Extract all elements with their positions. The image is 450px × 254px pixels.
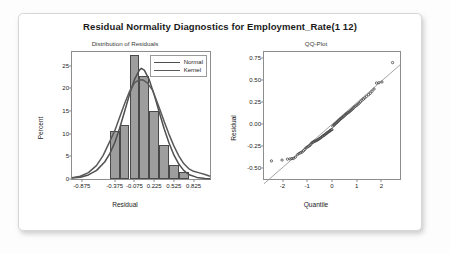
hist-x-tick: 0.825 bbox=[186, 183, 201, 189]
hist-x-tickmark bbox=[173, 179, 174, 182]
qq-panel: QQ-Plot Residual Quantile -0.50-0.250.00… bbox=[223, 40, 409, 216]
hist-x-tickmark bbox=[154, 179, 155, 182]
qq-point bbox=[270, 160, 272, 162]
qq-y-tick: -0.50 bbox=[247, 165, 261, 171]
qq-point bbox=[331, 128, 333, 130]
hist-y-tick: 15 bbox=[62, 108, 69, 114]
hist-y-tick: 20 bbox=[62, 85, 69, 91]
histogram-plot-area: Normal Kernel 0510152025-0.875-0.375-0.0… bbox=[71, 51, 211, 180]
hist-x-tick: 0.225 bbox=[147, 183, 162, 189]
hist-x-tick: -0.875 bbox=[73, 183, 90, 189]
hist-x-tick: -0.075 bbox=[126, 183, 143, 189]
hist-y-tick: 10 bbox=[62, 131, 69, 137]
qq-y-axis-label: Residual bbox=[230, 115, 237, 141]
hist-x-tickmark bbox=[81, 179, 82, 182]
hist-y-tick: 25 bbox=[62, 63, 69, 69]
qq-y-tickmark bbox=[261, 146, 264, 147]
hist-x-tick: -0.375 bbox=[106, 183, 123, 189]
qq-reference-line bbox=[264, 65, 400, 184]
figure-title: Residual Normality Diagnostics for Emplo… bbox=[19, 21, 421, 32]
qq-x-tickmark bbox=[282, 179, 283, 182]
qq-x-tickmark bbox=[307, 179, 308, 182]
hist-y-axis-label: Percent bbox=[37, 117, 44, 140]
qq-y-tickmark bbox=[261, 80, 264, 81]
qq-y-tick: 0.50 bbox=[249, 77, 261, 83]
qq-point bbox=[373, 88, 375, 90]
qq-y-tick: 0.25 bbox=[249, 99, 261, 105]
hist-x-tickmark bbox=[193, 179, 194, 182]
qq-plot-area: -0.50-0.250.000.250.500.75-2-1012 bbox=[263, 51, 401, 180]
qq-x-tick: 1 bbox=[355, 183, 358, 189]
qq-y-tick: 0.75 bbox=[249, 55, 261, 61]
qq-y-tick: 0.00 bbox=[249, 121, 261, 127]
density-curve-normal bbox=[72, 68, 210, 178]
qq-x-tickmark bbox=[381, 179, 382, 182]
density-curve-kernel bbox=[72, 80, 210, 178]
qq-point bbox=[381, 81, 383, 83]
hist-y-tickmark bbox=[69, 156, 72, 157]
qq-x-tick: -1 bbox=[305, 183, 310, 189]
distribution-subtitle: Distribution of Residuals bbox=[31, 40, 219, 47]
hist-y-tickmark bbox=[69, 133, 72, 134]
qq-y-tickmark bbox=[261, 58, 264, 59]
hist-y-tickmark bbox=[69, 88, 72, 89]
qq-x-axis-label: Quantile bbox=[223, 201, 409, 208]
qq-x-tickmark bbox=[356, 179, 357, 182]
qq-subtitle: QQ-Plot bbox=[223, 40, 409, 47]
qq-point bbox=[369, 92, 371, 94]
qq-point bbox=[294, 156, 296, 158]
qq-point bbox=[281, 159, 283, 161]
qq-y-tickmark bbox=[261, 124, 264, 125]
qq-y-tick: -0.25 bbox=[247, 143, 261, 149]
distribution-panel: Distribution of Residuals Percent Residu… bbox=[31, 40, 219, 216]
qq-x-tick: -2 bbox=[280, 183, 285, 189]
qq-y-tickmark bbox=[261, 168, 264, 169]
hist-x-tick: 0.525 bbox=[166, 183, 181, 189]
hist-x-axis-label: Residual bbox=[31, 201, 219, 208]
density-curves bbox=[72, 52, 210, 179]
screenshot-canvas: Residual Normality Diagnostics for Emplo… bbox=[0, 0, 450, 254]
qq-point bbox=[286, 158, 288, 160]
qq-x-tickmark bbox=[332, 179, 333, 182]
hist-x-tickmark bbox=[134, 179, 135, 182]
qq-x-tick: 0 bbox=[330, 183, 333, 189]
qq-point bbox=[371, 90, 373, 92]
qq-point bbox=[375, 82, 377, 84]
qq-graphics bbox=[264, 52, 400, 179]
hist-y-tickmark bbox=[69, 179, 72, 180]
chart-frame: Residual Normality Diagnostics for Emplo… bbox=[18, 13, 422, 231]
qq-y-tickmark bbox=[261, 102, 264, 103]
hist-y-tickmark bbox=[69, 110, 72, 111]
qq-point bbox=[391, 61, 393, 63]
qq-x-tick: 2 bbox=[380, 183, 383, 189]
hist-x-tickmark bbox=[114, 179, 115, 182]
hist-y-tickmark bbox=[69, 65, 72, 66]
